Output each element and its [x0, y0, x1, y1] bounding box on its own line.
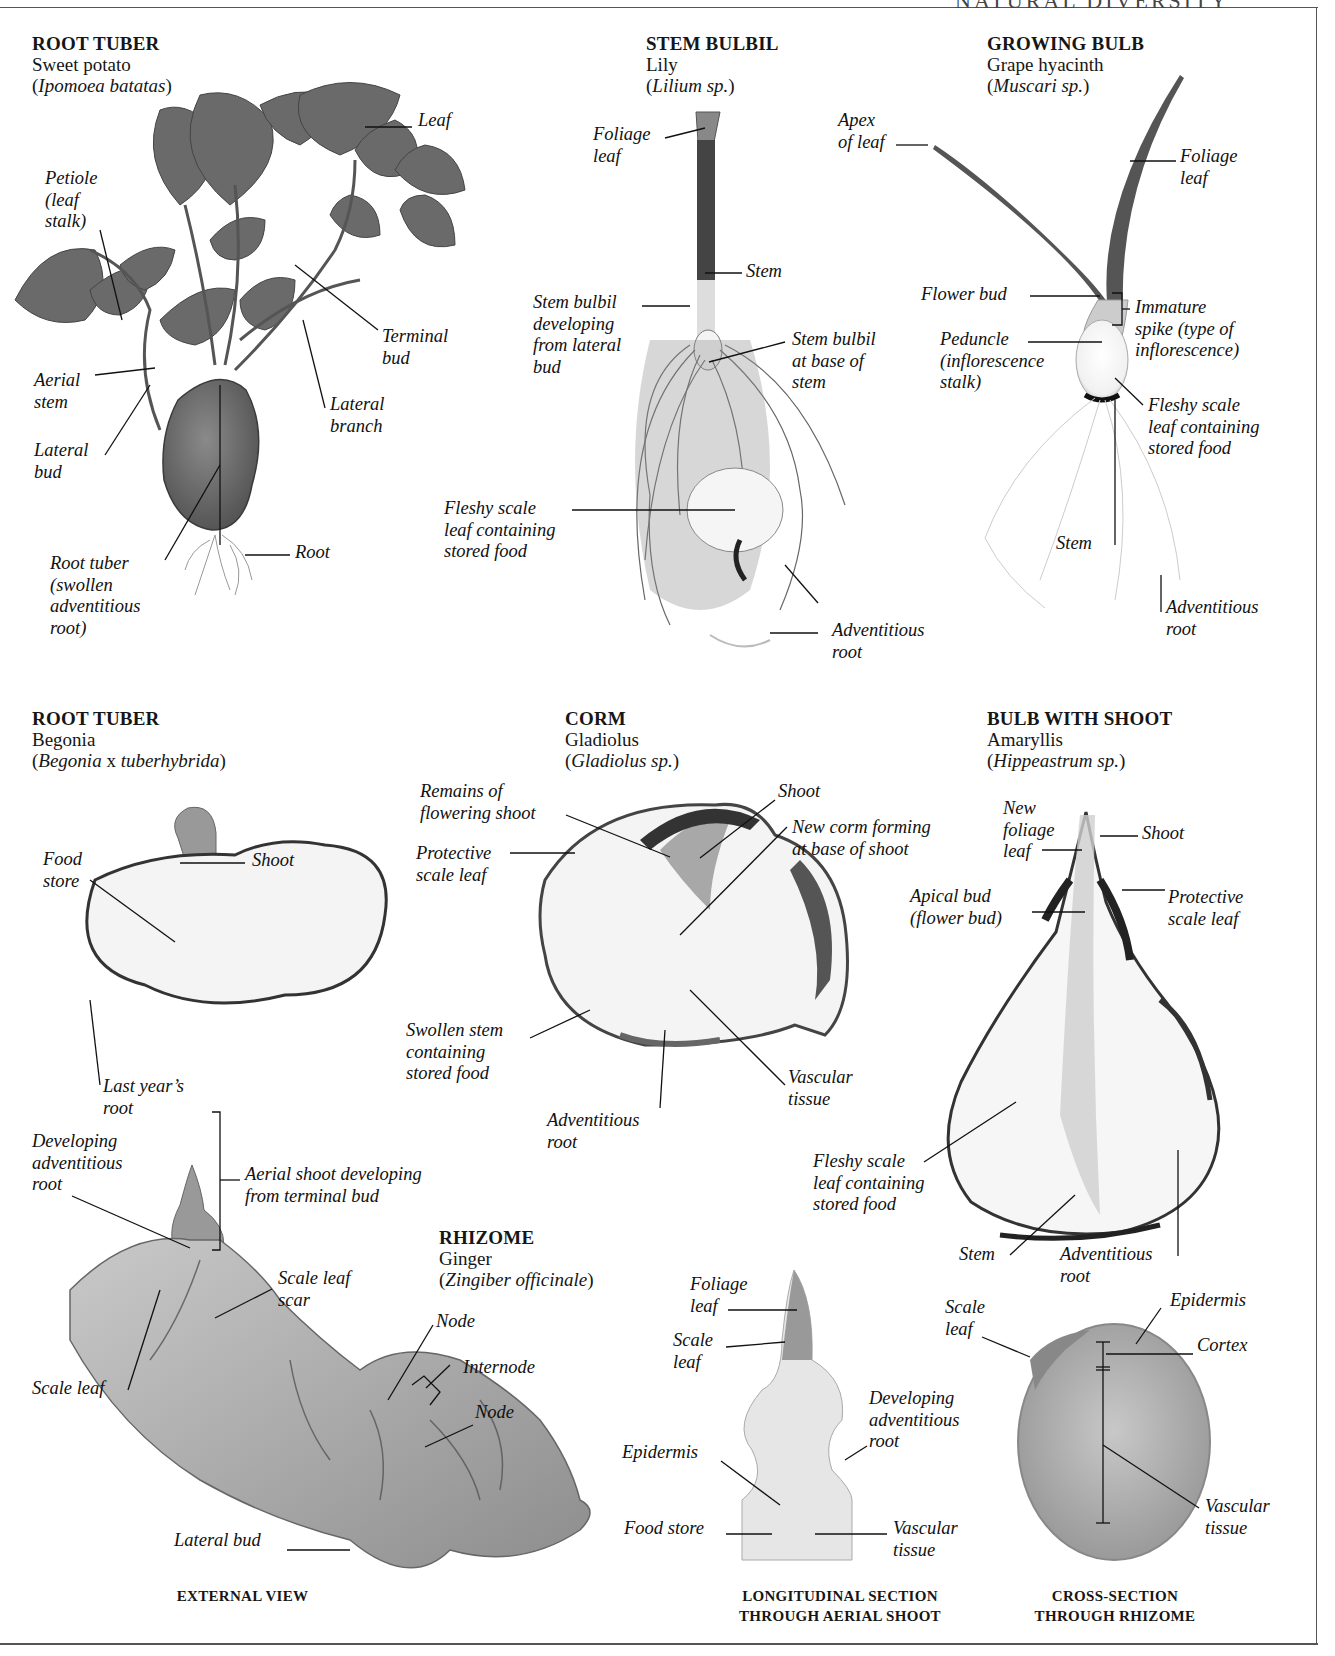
label-fleshy-scale-leaf: Fleshy scale leaf containing stored food — [444, 498, 556, 563]
label-lateral-bud: Lateral bud — [174, 1530, 261, 1552]
label-cortex: Cortex — [1197, 1335, 1247, 1357]
label-shoot: Shoot — [1142, 823, 1184, 845]
title-gladiolus: CORM Gladiolus (Gladiolus sp.) — [565, 708, 679, 771]
title-grape-hyacinth: GROWING BULB Grape hyacinth (Muscari sp.… — [987, 33, 1144, 96]
label-root: Root — [295, 542, 330, 564]
specimen-common-name: Amaryllis — [987, 729, 1172, 750]
label-fleshy-scale-leaf: Fleshy scale leaf containing stored food — [813, 1151, 925, 1216]
ginger-longitudinal-illustration — [742, 1270, 852, 1560]
specimen-type: GROWING BULB — [987, 33, 1144, 54]
title-ginger: RHIZOME Ginger (Zingiber officinale) — [439, 1227, 594, 1290]
specimen-scientific-name: (Hippeastrum sp.) — [987, 750, 1172, 771]
label-swollen-stem: Swollen stem containing stored food — [406, 1020, 503, 1085]
label-protective-scale-leaf: Protective scale leaf — [416, 843, 491, 886]
label-vascular-tissue: Vascular tissue — [893, 1518, 958, 1561]
label-root-tuber: Root tuber (swollen adventitious root) — [50, 553, 140, 639]
label-protective-scale-leaf: Protective scale leaf — [1168, 887, 1243, 930]
label-adventitious-root: Adventitious root — [1166, 597, 1258, 640]
specimen-common-name: Sweet potato — [32, 54, 172, 75]
label-foliage-leaf: Foliage leaf — [1180, 146, 1238, 189]
label-internode: Internode — [463, 1357, 535, 1379]
specimen-type: CORM — [565, 708, 679, 729]
specimen-common-name: Gladiolus — [565, 729, 679, 750]
label-apex-of-leaf: Apex of leaf — [838, 110, 885, 153]
title-amaryllis: BULB WITH SHOOT Amaryllis (Hippeastrum s… — [987, 708, 1172, 771]
label-stem: Stem — [1056, 533, 1092, 555]
label-aerial-shoot: Aerial shoot developing from terminal bu… — [245, 1164, 422, 1207]
label-shoot: Shoot — [252, 850, 294, 872]
label-stem: Stem — [746, 261, 782, 283]
label-developing-adventitious-root: Developing adventitious root — [869, 1388, 959, 1453]
caption-longitudinal-section: LONGITUDINAL SECTION THROUGH AERIAL SHOO… — [715, 1586, 965, 1626]
label-new-corm: New corm forming at base of shoot — [792, 817, 931, 860]
specimen-type: RHIZOME — [439, 1227, 594, 1248]
label-last-years-root: Last year’s root — [103, 1076, 184, 1119]
specimen-scientific-name: (Begonia x tuberhybrida) — [32, 750, 226, 771]
label-node-upper: Node — [436, 1311, 475, 1333]
specimen-type: BULB WITH SHOOT — [987, 708, 1172, 729]
title-lily: STEM BULBIL Lily (Lilium sp.) — [646, 33, 779, 96]
label-lateral-branch: Lateral branch — [330, 394, 384, 437]
label-aerial-stem: Aerial stem — [34, 370, 80, 413]
specimen-scientific-name: (Gladiolus sp.) — [565, 750, 679, 771]
diagram-artwork — [0, 0, 1335, 1656]
label-lateral-bud: Lateral bud — [34, 440, 88, 483]
caption-cross-section: CROSS-SECTION THROUGH RHIZOME — [1010, 1586, 1220, 1626]
label-immature-spike: Immature spike (type of inflorescence) — [1135, 297, 1239, 362]
specimen-scientific-name: (Muscari sp.) — [987, 75, 1144, 96]
label-node-lower: Node — [475, 1402, 514, 1424]
specimen-scientific-name: (Lilium sp.) — [646, 75, 779, 96]
label-new-foliage-leaf: New foliage leaf — [1003, 798, 1054, 863]
label-stem-bulbil-developing: Stem bulbil developing from lateral bud — [533, 292, 621, 378]
specimen-scientific-name: (Zingiber officinale) — [439, 1269, 594, 1290]
specimen-type: STEM BULBIL — [646, 33, 779, 54]
specimen-common-name: Ginger — [439, 1248, 594, 1269]
label-epidermis: Epidermis — [622, 1442, 698, 1464]
label-epidermis: Epidermis — [1170, 1290, 1246, 1312]
label-vascular-tissue: Vascular tissue — [1205, 1496, 1270, 1539]
label-leaf: Leaf — [418, 110, 451, 132]
specimen-common-name: Grape hyacinth — [987, 54, 1144, 75]
label-shoot: Shoot — [778, 781, 820, 803]
title-sweet-potato: ROOT TUBER Sweet potato (Ipomoea batatas… — [32, 33, 172, 96]
specimen-common-name: Lily — [646, 54, 779, 75]
label-adventitious-root: Adventitious root — [832, 620, 924, 663]
label-vascular-tissue: Vascular tissue — [788, 1067, 853, 1110]
ginger-cross-section-illustration — [1018, 1324, 1210, 1560]
label-stem: Stem — [959, 1244, 995, 1266]
label-apical-bud: Apical bud (flower bud) — [910, 886, 1002, 929]
label-flower-bud: Flower bud — [921, 284, 1007, 306]
label-developing-adventitious-root: Developing adventitious root — [32, 1131, 122, 1196]
label-fleshy-scale-leaf: Fleshy scale leaf containing stored food — [1148, 395, 1260, 460]
title-begonia: ROOT TUBER Begonia (Begonia x tuberhybri… — [32, 708, 226, 771]
label-peduncle: Peduncle (inflorescence stalk) — [940, 329, 1044, 394]
label-scale-leaf: Scale leaf — [945, 1297, 985, 1340]
label-scale-leaf-scar: Scale leaf scar — [278, 1268, 350, 1311]
specimen-scientific-name: (Ipomoea batatas) — [32, 75, 172, 96]
caption-external-view: EXTERNAL VIEW — [150, 1586, 335, 1606]
label-petiole: Petiole (leaf stalk) — [45, 168, 97, 233]
label-scale-leaf: Scale leaf — [673, 1330, 713, 1373]
specimen-type: ROOT TUBER — [32, 708, 226, 729]
specimen-type: ROOT TUBER — [32, 33, 172, 54]
label-scale-leaf: Scale leaf — [32, 1378, 104, 1400]
label-adventitious-root: Adventitious root — [547, 1110, 639, 1153]
specimen-common-name: Begonia — [32, 729, 226, 750]
label-food-store: Food store — [43, 849, 82, 892]
label-stem-bulbil-base: Stem bulbil at base of stem — [792, 329, 876, 394]
label-food-store: Food store — [624, 1518, 704, 1540]
label-foliage-leaf: Foliage leaf — [593, 124, 651, 167]
label-adventitious-root: Adventitious root — [1060, 1244, 1152, 1287]
begonia-illustration — [87, 807, 386, 1003]
label-terminal-bud: Terminal bud — [382, 326, 448, 369]
label-remains-flowering-shoot: Remains of flowering shoot — [420, 781, 536, 824]
label-foliage-leaf: Foliage leaf — [690, 1274, 748, 1317]
